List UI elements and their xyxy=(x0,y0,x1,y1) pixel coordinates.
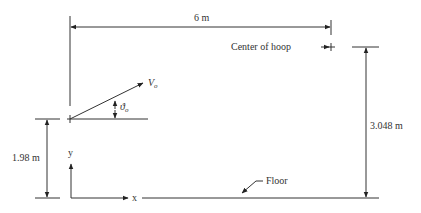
coordinate-axes: y x xyxy=(68,147,137,203)
velocity-vector xyxy=(70,83,143,119)
projectile-diagram: 6 m Center of hoop 3.048 m Vo ϑo 1.98 m … xyxy=(0,0,421,213)
horizontal-distance-dimension: 6 m xyxy=(71,12,331,35)
floor-arrow xyxy=(242,181,263,193)
floor-label: Floor xyxy=(266,175,288,186)
release-height-label: 1.98 m xyxy=(12,152,40,163)
hoop-callout: Center of hoop xyxy=(231,41,335,52)
release-height-dimension: 1.98 m xyxy=(12,119,60,198)
launch-point: Vo ϑo xyxy=(67,77,158,123)
x-axis-label: x xyxy=(132,192,137,203)
hoop-height-label: 3.048 m xyxy=(370,120,403,131)
floor: Floor xyxy=(142,175,379,198)
horizontal-distance-label: 6 m xyxy=(194,12,210,23)
velocity-label: Vo xyxy=(148,77,158,90)
hoop-label: Center of hoop xyxy=(231,41,291,52)
angle-label: ϑo xyxy=(120,101,129,114)
hoop-height-dimension: 3.048 m xyxy=(352,47,403,197)
y-axis-label: y xyxy=(68,147,73,158)
